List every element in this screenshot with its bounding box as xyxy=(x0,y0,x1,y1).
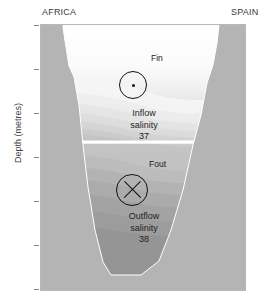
outflow-annotation-line-2: salinity xyxy=(99,223,189,235)
inflow-annotation-line-2: salinity xyxy=(99,120,189,132)
cross-section-graphic xyxy=(41,25,245,290)
y-tick-mark-300 xyxy=(34,289,39,290)
inflow-marker-label: Fin xyxy=(151,53,163,63)
left-coast-label: AFRICA xyxy=(42,7,76,17)
plot-area: Fin Fout Inflow salinity 37 Outflow sali… xyxy=(40,24,246,291)
y-tick-mark-250 xyxy=(34,245,39,246)
y-tick-mark-100 xyxy=(34,113,39,114)
y-tick-mark-0 xyxy=(34,25,39,26)
right-coast-label: SPAIN xyxy=(231,7,258,17)
inflow-annotation: Inflow salinity 37 xyxy=(99,108,189,143)
y-axis-title: Depth (metres) xyxy=(13,68,23,198)
outflow-annotation-line-3: 38 xyxy=(99,234,189,246)
inflow-annotation-line-1: Inflow xyxy=(99,108,189,120)
inflow-annotation-line-3: 37 xyxy=(99,131,189,143)
y-tick-mark-50 xyxy=(34,69,39,70)
flow-out-of-page-dot xyxy=(132,84,135,87)
salinity-cross-section-figure: AFRICA SPAIN 0 -50 -100 -150 -200 -250 -… xyxy=(0,0,273,300)
y-tick-mark-150 xyxy=(34,157,39,158)
outflow-marker-label: Fout xyxy=(149,159,166,169)
outflow-annotation-line-1: Outflow xyxy=(99,211,189,223)
outflow-annotation: Outflow salinity 38 xyxy=(99,211,189,246)
y-tick-mark-200 xyxy=(34,201,39,202)
